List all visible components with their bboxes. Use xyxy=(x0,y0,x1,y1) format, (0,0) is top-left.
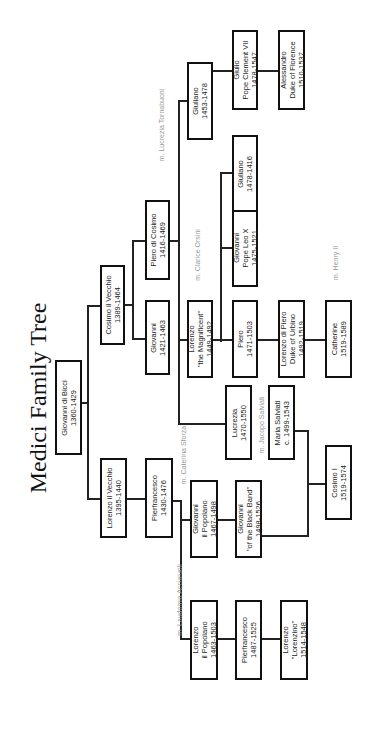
person-giuliano-1453: Giuliano1453-1478 xyxy=(187,62,213,140)
connector xyxy=(258,70,278,72)
connector xyxy=(218,638,235,640)
connector xyxy=(213,70,232,72)
person-lorenzo-di-piero: Lorenzo di PieroDuke of Urbino1492-1519 xyxy=(278,300,305,378)
connector xyxy=(258,339,278,341)
person-pierfrancesco-1430: Pierfrancesco1430-1476 xyxy=(145,458,173,538)
connector xyxy=(262,638,280,640)
connector xyxy=(170,240,179,242)
person-lorenzo-lorenzino: Lorenzo"Lorenzino"1514-1548 xyxy=(280,600,308,680)
marriage-label-caterina: m. Caterina Sforza xyxy=(176,405,190,505)
connector xyxy=(178,100,187,102)
marriage-label-laudomia: m. Laudomia Acciaiuoli xyxy=(172,545,186,655)
person-giovanni-1421: Giovanni1421-1463 xyxy=(145,300,170,375)
person-giuliano-1478: Giuliano1478-1416 xyxy=(232,135,258,212)
marriage-label-lucrezia-tornabuoni: m. Lucrezia Tornabuoni xyxy=(154,60,168,190)
connector xyxy=(87,498,100,500)
connector xyxy=(213,339,232,341)
person-alessandro: AlessandroDuke of Florence1510-1537 xyxy=(278,30,305,110)
connector xyxy=(180,519,190,521)
person-piero-1471: Piero1471-1503 xyxy=(232,300,258,378)
person-giovanni-di-bicci: Giovanni di Bicci1360-1429 xyxy=(55,360,82,455)
person-giovanni-pope-leo-x: GiovanniPope Leo X1475-1521 xyxy=(232,208,258,287)
person-piero-di-cosimo: Piero di Cosimo1416-1469 xyxy=(145,200,170,280)
person-maria-salviati: Maria Salviatic. 1499-1543 xyxy=(268,385,295,460)
person-lorenzo-the-magnificent: Lorenzo"the Magnificent"1449-1492 xyxy=(187,300,213,378)
marriage-label-henry: m. Henry II xyxy=(328,228,342,298)
connector xyxy=(125,304,133,306)
person-lorenzo-il-popolano: Lorenzoil Popolano1463-1503 xyxy=(190,600,218,680)
connector xyxy=(307,483,325,485)
connector xyxy=(178,100,180,425)
person-lucrezia: Lucrezia1470-1550 xyxy=(225,385,252,460)
person-giovanni-black-band: Giovanni"of the Black Band"1498-1526 xyxy=(235,480,262,558)
person-cosimo-il-vecchio: Cosimo il Vecchio1389-1464 xyxy=(100,265,125,345)
person-giulio-pope-clement-vii: GiulioPope Clement VII1478-1547 xyxy=(232,30,258,110)
connector xyxy=(305,339,325,341)
connector xyxy=(132,240,145,242)
person-giovanni-il-popolano: Giovanniil Popolano1467-1498 xyxy=(190,480,218,558)
person-cosimo-i: Cosimo I1519-1574 xyxy=(325,445,352,520)
diagram-title: Medici Family Tree xyxy=(22,290,54,505)
connector xyxy=(127,498,145,500)
connector xyxy=(262,535,308,537)
connector xyxy=(220,172,232,174)
person-catherine: Catherine1519-1589 xyxy=(325,300,352,378)
connector xyxy=(82,402,88,404)
marriage-label-jacopo: m. Jacopo Salviati xyxy=(254,385,268,465)
connector xyxy=(132,240,134,340)
connector xyxy=(132,338,145,340)
person-lorenzo-il-vecchio: Lorenzo il Vecchio1395-1440 xyxy=(100,458,127,538)
connector xyxy=(218,519,235,521)
connector xyxy=(220,247,232,249)
connector xyxy=(220,172,222,342)
connector xyxy=(87,305,100,307)
person-pierfrancesco-1487: Pierfrancesco1487-1525 xyxy=(235,600,262,680)
marriage-label-clarice: m. Clarice Orsini xyxy=(190,210,204,300)
